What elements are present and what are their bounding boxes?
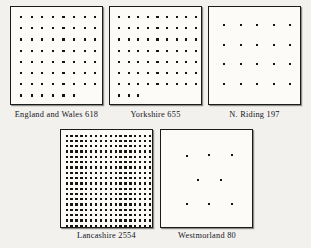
data-dot <box>147 50 149 52</box>
data-dot <box>166 83 168 85</box>
data-dot <box>119 198 121 200</box>
data-dot <box>223 44 225 46</box>
data-dot <box>75 214 77 216</box>
data-dot <box>100 177 102 179</box>
data-dot <box>115 188 117 190</box>
data-dot <box>176 38 178 40</box>
data-dot <box>115 156 117 158</box>
data-dot <box>144 219 146 221</box>
data-dot <box>31 83 33 85</box>
data-dot <box>208 154 210 156</box>
data-dot <box>185 38 187 40</box>
data-dot <box>66 140 68 142</box>
data-dot <box>52 38 54 40</box>
data-dot <box>95 193 97 195</box>
data-dot <box>134 219 136 221</box>
data-dot <box>75 219 77 221</box>
data-dot <box>124 225 126 227</box>
data-dot <box>195 61 197 63</box>
data-dot <box>85 166 87 168</box>
data-dot <box>80 156 82 158</box>
data-dot <box>66 188 68 190</box>
data-dot <box>66 214 68 216</box>
data-dot <box>220 179 222 181</box>
data-dot <box>62 38 64 40</box>
data-dot <box>90 219 92 221</box>
data-dot <box>85 203 87 205</box>
data-dot <box>129 166 131 168</box>
dot-density-figure: England and Wales 618Yorkshire 655N. Rid… <box>0 0 311 248</box>
data-dot <box>147 38 149 40</box>
data-dot <box>73 72 75 74</box>
data-dot <box>85 177 87 179</box>
data-dot <box>100 172 102 174</box>
data-dot <box>144 172 146 174</box>
data-dot <box>70 145 72 147</box>
data-dot <box>149 166 151 168</box>
data-dot <box>115 219 117 221</box>
dot-grid-westmorland <box>161 130 252 227</box>
data-dot <box>75 177 77 179</box>
dot-box-yorkshire <box>109 6 202 105</box>
data-dot <box>73 27 75 29</box>
data-dot <box>137 94 139 96</box>
data-dot <box>119 182 121 184</box>
data-dot <box>94 38 96 40</box>
data-dot <box>80 182 82 184</box>
data-dot <box>75 193 77 195</box>
data-dot <box>90 177 92 179</box>
data-dot <box>110 135 112 137</box>
data-dot <box>139 135 141 137</box>
data-dot <box>119 156 121 158</box>
data-dot <box>73 50 75 52</box>
data-dot <box>90 145 92 147</box>
data-dot <box>41 27 43 29</box>
data-dot <box>75 166 77 168</box>
data-dot <box>139 161 141 163</box>
data-dot <box>134 193 136 195</box>
data-dot <box>195 16 197 18</box>
data-dot <box>124 156 126 158</box>
data-dot <box>119 193 121 195</box>
data-dot <box>73 94 75 96</box>
data-dot <box>139 140 141 142</box>
data-dot <box>129 150 131 152</box>
data-dot <box>144 214 146 216</box>
data-dot <box>95 150 97 152</box>
data-dot <box>100 209 102 211</box>
data-dot <box>166 61 168 63</box>
data-dot <box>139 166 141 168</box>
data-dot <box>66 225 68 227</box>
data-dot <box>94 72 96 74</box>
data-dot <box>119 219 121 221</box>
data-dot <box>137 16 139 18</box>
data-dot <box>75 209 77 211</box>
data-dot <box>31 50 33 52</box>
panel-caption-yorkshire: Yorkshire 655 <box>109 110 202 119</box>
data-dot <box>240 63 242 65</box>
data-dot <box>115 225 117 227</box>
dot-grid-england-and-wales <box>11 7 102 104</box>
data-dot <box>75 198 77 200</box>
data-dot <box>70 177 72 179</box>
data-dot <box>75 182 77 184</box>
data-dot <box>66 219 68 221</box>
data-dot <box>149 156 151 158</box>
data-dot <box>84 27 86 29</box>
data-dot <box>124 150 126 152</box>
data-dot <box>124 209 126 211</box>
data-dot <box>105 140 107 142</box>
data-dot <box>149 225 151 227</box>
data-dot <box>85 135 87 137</box>
data-dot <box>31 72 33 74</box>
data-dot <box>139 209 141 211</box>
data-dot <box>144 182 146 184</box>
panel-caption-england-and-wales: England and Wales 618 <box>4 110 109 119</box>
data-dot <box>100 203 102 205</box>
data-dot <box>75 203 77 205</box>
dot-box-westmorland <box>160 129 253 228</box>
data-dot <box>240 83 242 85</box>
data-dot <box>70 172 72 174</box>
data-dot <box>185 61 187 63</box>
data-dot <box>90 182 92 184</box>
